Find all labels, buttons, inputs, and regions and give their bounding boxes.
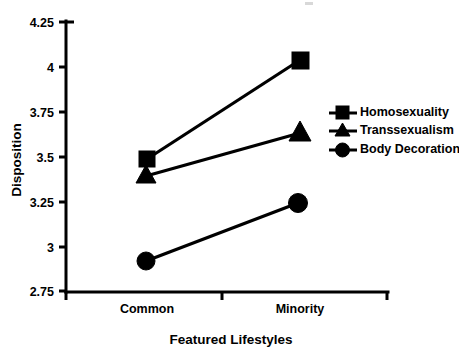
square-marker-icon — [336, 106, 349, 119]
x-tick-label-common: Common — [120, 302, 174, 316]
square-marker-icon — [292, 52, 309, 69]
legend-label-body-decoration: Body Decoration — [360, 142, 459, 156]
y-tick-label-3-25: 3.25 — [30, 196, 54, 210]
y-axis-title: Disposition — [9, 123, 24, 197]
y-tick-label-3: 3 — [47, 241, 54, 255]
series-transsexualism — [136, 121, 311, 183]
y-tick-label-3-75: 3.75 — [30, 106, 54, 120]
legend-label-homosexuality: Homosexuality — [360, 105, 449, 119]
line-chart: 4.25 4 3.75 3.5 3.25 3 2.75 Common Minor… — [0, 0, 459, 353]
y-tick-label-2-75: 2.75 — [30, 285, 54, 299]
legend-item-homosexuality: Homosexuality — [329, 105, 449, 119]
legend: Homosexuality Transsexualism Body Decora… — [329, 105, 459, 157]
triangle-marker-icon — [289, 121, 311, 141]
y-tick-label-4: 4 — [47, 61, 54, 75]
chart-canvas: 4.25 4 3.75 3.5 3.25 3 2.75 Common Minor… — [0, 0, 459, 353]
legend-label-transsexualism: Transsexualism — [360, 123, 454, 137]
x-tick-label-minority: Minority — [276, 302, 325, 316]
y-tick-label-3-5: 3.5 — [37, 151, 54, 165]
circle-marker-icon — [336, 143, 350, 157]
x-axis-title: Featured Lifestyles — [169, 332, 292, 347]
series-homosexuality — [139, 52, 309, 167]
circle-marker-icon — [289, 194, 308, 213]
legend-item-body-decoration: Body Decoration — [329, 142, 459, 157]
y-tick-label-4-25: 4.25 — [30, 16, 54, 30]
square-marker-icon — [139, 151, 155, 167]
circle-marker-icon — [137, 252, 155, 270]
legend-item-transsexualism: Transsexualism — [329, 123, 454, 137]
series-body-decoration — [137, 194, 308, 271]
